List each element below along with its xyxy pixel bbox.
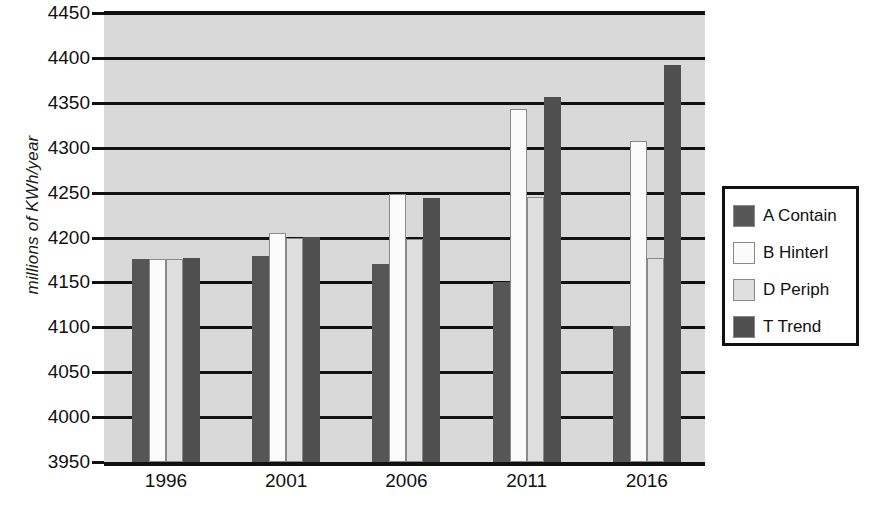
y-axis-tick-label: 4150: [20, 272, 90, 291]
y-axis-tick-mark: [92, 281, 104, 284]
bar: [423, 198, 440, 462]
y-axis-tick-label: 4450: [20, 3, 90, 22]
x-axis-tick-label: 2011: [467, 470, 587, 492]
legend-item: T Trend: [733, 308, 856, 345]
y-axis-tick-label: 4300: [20, 138, 90, 157]
y-axis-tick-mark: [92, 12, 104, 15]
y-axis-tick-label: 4400: [20, 48, 90, 67]
bar: [132, 259, 149, 462]
bar: [389, 194, 406, 463]
y-axis-tick-label: 4000: [20, 407, 90, 426]
bar: [166, 259, 183, 462]
bar: [664, 65, 681, 462]
y-axis-tick-label: 4050: [20, 362, 90, 381]
bar: [613, 326, 630, 462]
bar: [372, 264, 389, 462]
gridline: [104, 102, 705, 105]
bar: [269, 233, 286, 462]
x-axis-tick-label: 2006: [346, 470, 466, 492]
bar: [544, 97, 561, 462]
bar: [493, 282, 510, 462]
bar: [303, 237, 320, 462]
x-axis-tick-label: 2001: [226, 470, 346, 492]
legend-swatch-icon: [733, 242, 755, 264]
x-axis-tick-label: 1996: [106, 470, 226, 492]
gridline: [104, 57, 705, 60]
bar: [252, 256, 269, 462]
legend-label: B Hinterl: [763, 243, 828, 263]
y-axis-tick-mark: [92, 237, 104, 240]
bar: [647, 258, 664, 462]
bar: [149, 259, 166, 462]
chart-figure: millions of KWh/year 4450440043504300425…: [0, 0, 869, 505]
y-axis-tick-label: 4200: [20, 228, 90, 247]
y-axis-tick-mark: [92, 192, 104, 195]
y-axis-tick-label: 3950: [20, 452, 90, 471]
legend-label: T Trend: [763, 317, 821, 337]
y-axis-tick-label: 4350: [20, 93, 90, 112]
bar: [286, 238, 303, 463]
y-axis-tick-mark: [92, 326, 104, 329]
y-axis-tick-mark: [92, 416, 104, 419]
gridline: [104, 147, 705, 150]
plot-area: [104, 13, 705, 462]
y-axis-tick-mark: [92, 461, 104, 464]
y-axis-tick-label: 4100: [20, 317, 90, 336]
legend-label: A Contain: [763, 206, 837, 226]
chart-legend: A ContainB HinterlD PeriphT Trend: [722, 186, 859, 346]
bar: [527, 197, 544, 462]
y-axis-tick-mark: [92, 57, 104, 60]
legend-swatch-icon: [733, 316, 755, 338]
legend-label: D Periph: [763, 280, 829, 300]
plot-top-border: [104, 11, 705, 15]
bar: [630, 141, 647, 462]
y-axis-tick-mark: [92, 147, 104, 150]
x-axis-line: [104, 462, 705, 466]
y-axis-tick-labels: 4450440043504300425042004150410040504000…: [18, 0, 90, 505]
x-axis-tick-label: 2016: [587, 470, 707, 492]
y-axis-tick-label: 4250: [20, 183, 90, 202]
legend-item: D Periph: [733, 271, 856, 308]
legend-swatch-icon: [733, 279, 755, 301]
bar: [183, 258, 200, 462]
y-axis-tick-mark: [92, 371, 104, 374]
bar: [406, 239, 423, 462]
bar: [510, 109, 527, 462]
y-axis-tick-mark: [92, 102, 104, 105]
legend-item: B Hinterl: [733, 234, 856, 271]
legend-item: A Contain: [733, 197, 856, 234]
legend-swatch-icon: [733, 205, 755, 227]
